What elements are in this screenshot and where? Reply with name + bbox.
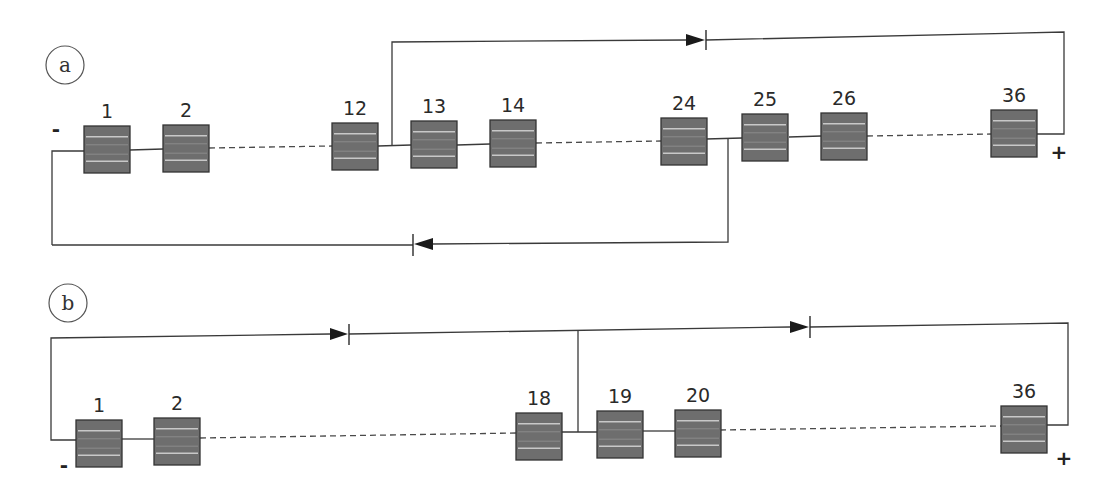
cell-label: 20: [686, 384, 710, 406]
cell-body: [821, 113, 867, 160]
cell-label: 14: [501, 94, 525, 116]
cell-label: 36: [1002, 84, 1026, 106]
cell-body: [163, 125, 209, 172]
cell-label: 19: [608, 385, 632, 407]
cell-body: [742, 114, 788, 161]
solar-cell-icon: 1: [84, 100, 130, 173]
cell-label: 1: [93, 394, 105, 416]
wire-a-12-13: [378, 145, 411, 146]
panel-a-badge: a: [46, 46, 84, 84]
elision-a-26-36: [867, 134, 991, 136]
panel-b-letter: b: [62, 291, 75, 315]
cell-body: [675, 410, 721, 457]
panel-a: a - + 1212131424252636: [46, 30, 1067, 256]
wire-a-13-14: [457, 144, 490, 145]
cell-label: 12: [343, 97, 367, 119]
wire-a-neg-lead: [52, 151, 84, 245]
cell-body: [1001, 406, 1047, 453]
solar-cell-icon: 2: [154, 392, 200, 465]
diode-a2-triangle: [414, 238, 433, 250]
elision-b-2-18: [200, 433, 516, 438]
solar-cell-icon: 26: [821, 87, 867, 160]
diode-b1-triangle: [330, 328, 348, 340]
elision-b-20-36: [720, 426, 1001, 430]
cell-label: 18: [527, 387, 551, 409]
diode-icon: [686, 30, 706, 50]
cell-label: 13: [422, 95, 446, 117]
cell-label: 2: [171, 392, 183, 414]
solar-cell-icon: 13: [411, 95, 457, 168]
solar-cell-icon: 25: [742, 88, 788, 161]
solar-cell-icon: 1: [76, 394, 122, 467]
solar-cell-icon: 19: [597, 385, 643, 458]
cell-label: 2: [180, 99, 192, 121]
cells-panel-b: 1218192036: [76, 380, 1047, 467]
cell-body: [490, 120, 536, 167]
cell-label: 36: [1012, 380, 1036, 402]
cell-label: 1: [101, 100, 113, 122]
diode-icon: [413, 234, 433, 256]
cell-body: [84, 126, 130, 173]
wire-a-1-2: [130, 149, 163, 150]
cell-body: [154, 418, 200, 465]
solar-cell-icon: 12: [332, 97, 378, 170]
wire-b-top-bus: [349, 327, 790, 334]
cells-panel-a: 1212131424252636: [84, 84, 1037, 173]
negative-terminal-b: -: [60, 453, 68, 477]
solar-cell-icon: 14: [490, 94, 536, 167]
panel-b-badge: b: [49, 284, 87, 322]
cell-body: [411, 121, 457, 168]
cell-body: [991, 110, 1037, 157]
positive-terminal-a: +: [1051, 140, 1068, 164]
solar-cell-icon: 36: [1001, 380, 1047, 453]
panel-b: b - + 1218192036: [49, 284, 1072, 477]
cell-body: [661, 118, 707, 165]
elision-a-14-24: [536, 141, 661, 143]
cell-label: 25: [753, 88, 777, 110]
wire-a-25-26: [789, 136, 821, 137]
negative-terminal-a: -: [52, 117, 60, 141]
cell-body: [332, 123, 378, 170]
cell-body: [597, 411, 643, 458]
solar-cell-icon: 20: [675, 384, 721, 457]
cell-body: [516, 413, 562, 460]
solar-cell-icon: 18: [516, 387, 562, 460]
circuit-diagram: a - + 1212131424252636: [0, 0, 1115, 491]
solar-cell-icon: 24: [661, 92, 707, 165]
wire-a-24-25: [706, 138, 742, 139]
solar-cell-icon: 2: [163, 99, 209, 172]
positive-terminal-b: +: [1056, 446, 1073, 470]
diode-icon: [330, 324, 349, 345]
elision-a-2-12: [209, 146, 332, 148]
diode-icon: [790, 316, 810, 338]
solar-cell-icon: 36: [991, 84, 1037, 157]
diode-b2-triangle: [790, 321, 809, 333]
panel-a-letter: a: [59, 53, 71, 77]
cell-body: [76, 420, 122, 467]
cell-label: 24: [672, 92, 696, 114]
diode-a1-triangle: [686, 34, 705, 46]
cell-label: 26: [832, 87, 856, 109]
